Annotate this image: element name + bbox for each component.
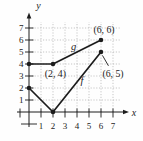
- y-tick-label: 4: [19, 59, 24, 69]
- data-point-marker: [99, 38, 104, 43]
- x-tick-label: 5: [87, 121, 92, 131]
- curve-label-g: g: [71, 41, 76, 52]
- x-tick-label: 4: [75, 121, 80, 131]
- curve-label-f: f: [81, 75, 86, 86]
- y-tick-label: 2: [19, 83, 24, 93]
- y-tick-label: 1: [19, 95, 24, 105]
- point-label: (6, 5): [102, 68, 123, 80]
- y-axis-label: y: [35, 0, 41, 11]
- x-tick-label: 6: [99, 121, 104, 131]
- data-point-marker: [51, 110, 56, 115]
- x-tick-label: 2: [51, 121, 56, 131]
- function-graph-figure: 12345671234567xygf(2, 4)(6, 6)(6, 5): [0, 0, 143, 141]
- grid: [29, 22, 121, 112]
- y-tick-label: 3: [19, 71, 24, 81]
- data-point-marker: [27, 86, 32, 91]
- x-axis-arrow: [123, 110, 129, 115]
- data-point-marker: [27, 62, 32, 67]
- x-axis-label: x: [131, 107, 137, 118]
- y-tick-label: 5: [19, 47, 24, 57]
- data-point-marker: [99, 50, 104, 55]
- y-tick-label: 7: [19, 23, 24, 33]
- point-label: (6, 6): [93, 24, 114, 36]
- x-tick-label: 7: [111, 121, 116, 131]
- point-label: (2, 4): [45, 68, 66, 80]
- x-tick-label: 3: [63, 121, 68, 131]
- x-tick-label: 1: [39, 121, 44, 131]
- data-point-marker: [51, 62, 56, 67]
- y-axis-arrow: [27, 13, 32, 19]
- graph-svg: 12345671234567xygf(2, 4)(6, 6)(6, 5): [0, 0, 143, 141]
- y-tick-label: 6: [19, 35, 24, 45]
